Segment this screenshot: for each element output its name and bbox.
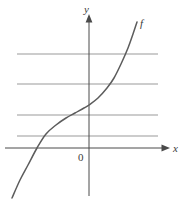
origin-label: 0 bbox=[78, 152, 84, 163]
x-axis bbox=[5, 145, 170, 152]
graph-canvas bbox=[0, 0, 187, 209]
x-axis-label: x bbox=[173, 143, 178, 154]
function-graph-figure: y x f 0 bbox=[0, 0, 187, 209]
x-axis-arrowhead bbox=[162, 145, 171, 152]
gridlines bbox=[17, 54, 158, 136]
y-axis-label: y bbox=[84, 4, 89, 15]
function-curve bbox=[12, 22, 137, 198]
curve-label-f: f bbox=[140, 18, 143, 29]
y-axis-arrowhead bbox=[86, 14, 93, 23]
